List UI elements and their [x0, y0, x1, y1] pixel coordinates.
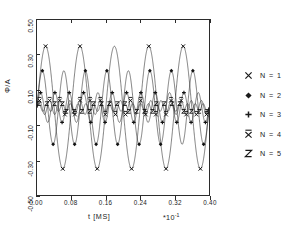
y-axis-tick-mark [36, 196, 40, 197]
x-axis-tick-mark-top [140, 19, 141, 23]
data-point-marker-diamond [40, 69, 44, 73]
data-point-marker-diamond [73, 142, 77, 146]
data-point-marker-plus [182, 91, 186, 95]
legend-item-4: N = 4 [243, 125, 305, 145]
data-point-marker-plus [82, 91, 86, 95]
x-axis-tick-mark-top [175, 19, 176, 23]
legend-marker-z-icon [243, 148, 260, 159]
data-point-marker-plus [204, 120, 208, 124]
data-point-marker-diamond [159, 142, 163, 146]
x-axis-tick-mark-top [106, 19, 107, 23]
x-axis-tick-mark-top [210, 19, 211, 23]
series-5 [37, 102, 209, 113]
legend-item-1: N = 1 [243, 66, 305, 86]
y-axis-tick-mark [36, 19, 40, 20]
data-point-marker-cross-x [164, 167, 168, 171]
x-axis-tick-label: 0.24 [134, 199, 147, 206]
y-axis-tick-labels: 0.500.300.10-0.10-0.30-0.50 [0, 19, 36, 196]
legend-marker-diamond-icon [243, 90, 260, 101]
legend-label: N = 1 [260, 71, 282, 80]
legend-item-5: N = 5 [243, 144, 305, 164]
x-axis-tick-mark-top [71, 19, 72, 23]
y-axis-tick-label: 0.50 [28, 19, 34, 32]
y-axis-tick-label: 0.30 [28, 54, 34, 67]
x-axis-exponent-base: *10 [163, 213, 175, 222]
data-point-marker-plus [189, 120, 193, 124]
x-axis-tick-mark [210, 196, 211, 200]
x-axis-tick-mark [140, 196, 141, 200]
data-point-marker-diamond [202, 142, 206, 146]
data-point-marker-diamond [83, 69, 87, 73]
data-point-marker-diamond [148, 69, 152, 73]
data-point-marker-x-bar [129, 97, 133, 102]
legend-item-3: N = 3 [243, 105, 305, 125]
figure-plot-phi-over-a: Φ/A 0.500.300.10-0.10-0.30-0.50 t [MS] *… [0, 0, 308, 237]
data-point-marker-cross-x [61, 167, 65, 171]
data-point-marker-cross-x [130, 167, 134, 171]
legend-item-2: N = 2 [243, 86, 305, 106]
x-axis-tick-label: 0.00 [29, 199, 42, 206]
data-point-marker-cross-x [78, 44, 82, 48]
plot-area [36, 19, 210, 196]
x-axis-tick-label: 0.08 [64, 199, 77, 206]
legend-marker-cross-x-icon [243, 70, 260, 81]
y-axis-tick-mark [36, 161, 40, 162]
data-point-marker-cross-x [147, 44, 151, 48]
data-point-marker-plus [103, 120, 107, 124]
data-point-marker-diamond [51, 142, 55, 146]
x-axis-tick-mark [175, 196, 176, 200]
legend: N = 1N = 2N = 3N = 4N = 5 [243, 66, 305, 164]
data-point-marker-cross-x [199, 167, 203, 171]
x-axis-tick-label: 0.32 [168, 199, 181, 206]
data-point-marker-diamond [137, 142, 141, 146]
chart-curves [37, 20, 209, 195]
data-point-marker-cross-x [44, 44, 48, 48]
y-axis-tick-mark [36, 90, 40, 91]
legend-label: N = 4 [260, 130, 282, 139]
x-axis-tick-label: 0.16 [99, 199, 112, 206]
legend-label: N = 5 [260, 149, 282, 158]
data-point-marker-diamond [116, 142, 120, 146]
data-point-marker-diamond [94, 142, 98, 146]
x-axis-title: t [MS] [88, 212, 110, 221]
y-axis-tick-label: -0.30 [28, 161, 34, 177]
data-point-marker-plus [161, 120, 165, 124]
x-axis-exponent: *10-1 [163, 212, 179, 222]
x-axis-tick-label: 0.40 [203, 199, 216, 206]
x-axis-exponent-power: -1 [175, 212, 180, 218]
data-point-marker-cross-x [181, 44, 185, 48]
data-point-marker-plus [39, 91, 43, 95]
data-point-marker-diamond [105, 69, 109, 73]
y-axis-tick-label: 0.10 [28, 90, 34, 103]
data-point-marker-plus [60, 120, 64, 124]
legend-marker-plus-icon [243, 109, 260, 120]
data-point-marker-diamond [191, 69, 195, 73]
y-axis-tick-mark [36, 54, 40, 55]
data-point-marker-plus [139, 91, 143, 95]
legend-marker-x-bar-icon [243, 129, 260, 140]
y-axis-tick-mark [36, 125, 40, 126]
data-point-marker-cross-x [95, 167, 99, 171]
x-axis-tick-mark [71, 196, 72, 200]
legend-label: N = 3 [260, 110, 282, 119]
legend-label: N = 2 [260, 91, 282, 100]
x-axis-tick-mark [106, 196, 107, 200]
data-point-marker-diamond [169, 69, 173, 73]
y-axis-tick-label: -0.10 [28, 125, 34, 141]
data-point-marker-plus [125, 91, 129, 95]
data-point-marker-plus [53, 91, 57, 95]
